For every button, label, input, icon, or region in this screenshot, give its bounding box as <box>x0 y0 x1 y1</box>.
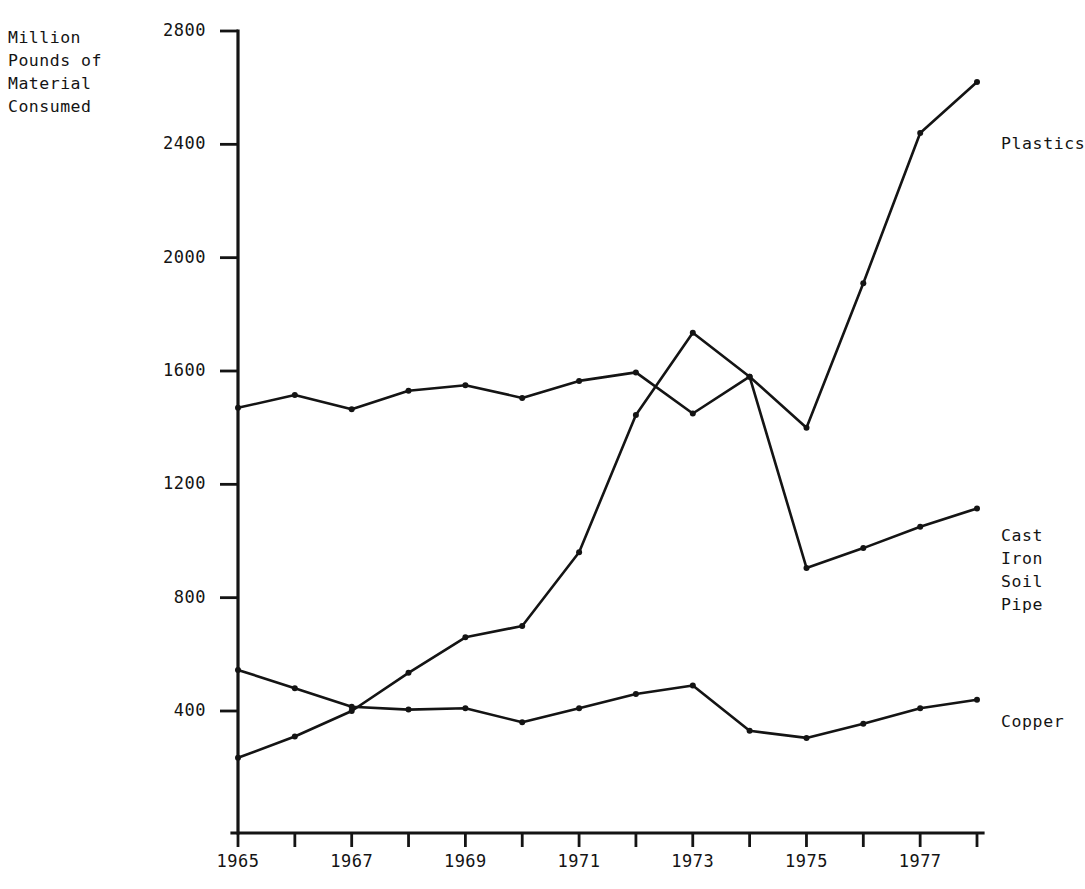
x-tick-label: 1973 <box>651 851 735 871</box>
data-point <box>917 524 923 530</box>
data-point <box>349 704 355 710</box>
series-line-plastics <box>238 82 977 758</box>
data-point <box>747 728 753 734</box>
x-tick-label: 1975 <box>764 851 848 871</box>
data-point <box>576 549 582 555</box>
data-point <box>519 395 525 401</box>
data-point <box>576 705 582 711</box>
data-point <box>917 130 923 136</box>
data-point <box>292 392 298 398</box>
data-point <box>804 425 810 431</box>
data-point <box>235 755 241 761</box>
data-point <box>235 405 241 411</box>
data-point <box>804 735 810 741</box>
y-tick-label: 1600 <box>114 360 206 380</box>
y-tick-label: 400 <box>114 700 206 720</box>
x-tick-label: 1967 <box>310 851 394 871</box>
data-point <box>633 412 639 418</box>
data-point <box>292 734 298 740</box>
y-tick-label: 2000 <box>114 247 206 267</box>
data-point <box>462 382 468 388</box>
data-point <box>406 388 412 394</box>
series-label-copper: Copper <box>1001 710 1064 733</box>
data-point <box>974 697 980 703</box>
series-line-cast-iron-soil-pipe <box>238 372 977 568</box>
data-point <box>860 721 866 727</box>
y-tick-label: 2800 <box>114 20 206 40</box>
data-point <box>292 685 298 691</box>
data-point <box>519 623 525 629</box>
data-point <box>917 705 923 711</box>
y-tick-label: 1200 <box>114 473 206 493</box>
x-tick-label: 1977 <box>878 851 962 871</box>
data-point <box>576 378 582 384</box>
data-point <box>690 330 696 336</box>
data-point <box>633 691 639 697</box>
data-point <box>519 719 525 725</box>
data-point <box>462 705 468 711</box>
series-line-copper <box>238 670 977 738</box>
y-tick-label: 800 <box>114 587 206 607</box>
series-label-plastics: Plastics <box>1001 132 1085 155</box>
series-label-cast-iron-soil-pipe: Cast Iron Soil Pipe <box>1001 524 1064 616</box>
data-point <box>235 667 241 673</box>
data-point <box>349 406 355 412</box>
data-point <box>690 411 696 417</box>
x-tick-label: 1971 <box>537 851 621 871</box>
data-point <box>747 374 753 380</box>
x-tick-label: 1969 <box>423 851 507 871</box>
data-point <box>804 565 810 571</box>
data-point <box>633 369 639 375</box>
data-point <box>974 505 980 511</box>
data-point <box>860 280 866 286</box>
data-point <box>406 670 412 676</box>
data-point <box>690 683 696 689</box>
x-tick-label: 1965 <box>196 851 280 871</box>
data-point <box>860 545 866 551</box>
y-tick-label: 2400 <box>114 133 206 153</box>
data-point <box>974 79 980 85</box>
data-point <box>462 634 468 640</box>
data-point <box>406 707 412 713</box>
